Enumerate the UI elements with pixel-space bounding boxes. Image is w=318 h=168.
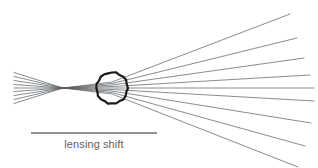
lensing-diagram-figure: lensing shift	[0, 0, 318, 168]
lensing-shift-label: lensing shift	[0, 137, 188, 151]
